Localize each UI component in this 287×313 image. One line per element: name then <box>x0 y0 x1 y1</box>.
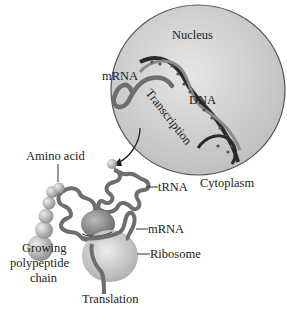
trna-free <box>98 159 148 212</box>
cytoplasm-label: Cytoplasm <box>200 176 254 190</box>
growing-chain-label-line3: chain <box>30 271 58 285</box>
ribosome-label: Ribosome <box>150 247 201 261</box>
growing-chain-label-line2: polypeptide <box>10 256 69 270</box>
trna-label: tRNA <box>158 180 188 194</box>
translation-label: Translation <box>82 292 139 306</box>
dna-label: DNA <box>189 93 216 107</box>
mrna-label-ribosome: mRNA <box>148 222 184 236</box>
mrna-label-nucleus: mRNA <box>102 69 138 83</box>
growing-chain-label-line1: Growing <box>22 241 67 255</box>
protein-synthesis-diagram: Nucleus DNA mRNA Transcription Cytoplasm… <box>0 0 287 313</box>
ribosome <box>81 210 138 282</box>
nucleus-label: Nucleus <box>172 28 213 42</box>
amino-acid-label: Amino acid <box>26 149 85 163</box>
